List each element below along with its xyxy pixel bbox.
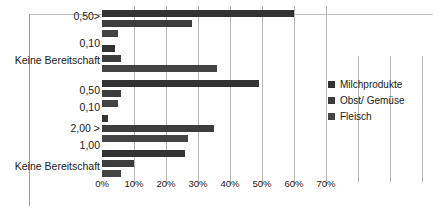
legend-item: Milchprodukte: [328, 76, 404, 92]
legend-swatch-icon: [328, 97, 335, 104]
bar: [102, 80, 259, 87]
category-label: 0,10: [80, 38, 100, 49]
value-tick-label: 60%: [284, 178, 303, 189]
category-label: Keine Bereitschaft: [15, 55, 100, 66]
gridline: [262, 6, 263, 186]
gridline: [326, 6, 327, 186]
gridline: [134, 6, 135, 186]
gridline: [230, 6, 231, 186]
legend-item: Fleisch: [328, 108, 404, 124]
bar: [102, 170, 121, 177]
legend-item: Obst/ Gemüse: [328, 92, 404, 108]
category-axis-line: [29, 14, 30, 206]
value-tick-label: 30%: [188, 178, 207, 189]
bar: [102, 90, 121, 97]
bar: [102, 45, 115, 52]
category-label: 0,50: [80, 85, 100, 96]
bar: [102, 10, 294, 17]
value-tick-label: 10%: [124, 178, 143, 189]
bar: [102, 150, 185, 157]
legend-swatch-icon: [328, 81, 335, 88]
gridline: [422, 56, 423, 182]
bar-chart: 0,50>0,10Keine Bereitschaft0,500,102,00 …: [0, 0, 439, 211]
value-tick-label: 50%: [252, 178, 271, 189]
bar: [102, 65, 217, 72]
legend-label: Fleisch: [340, 111, 372, 122]
bar: [102, 125, 214, 132]
category-label: 0,10: [80, 102, 100, 113]
bar: [102, 115, 108, 122]
plot-area: [102, 8, 327, 176]
bar: [102, 30, 118, 37]
gridline: [294, 6, 295, 186]
gridline: [198, 6, 199, 186]
category-label: 2,00 >: [71, 123, 101, 134]
gridline: [166, 6, 167, 186]
category-label: Keine Bereitschaft: [15, 161, 100, 172]
legend-label: Milchprodukte: [340, 79, 402, 90]
value-tick-label: 70%: [316, 178, 335, 189]
category-label: 0,50>: [73, 11, 100, 22]
chart-legend: MilchprodukteObst/ GemüseFleisch: [328, 76, 404, 124]
bar: [102, 135, 188, 142]
bar: [102, 55, 121, 62]
value-tick-label: 20%: [156, 178, 175, 189]
value-tick-label: 40%: [220, 178, 239, 189]
category-label: 1,00: [80, 140, 100, 151]
bar: [102, 100, 118, 107]
bar: [102, 20, 192, 27]
value-tick-label: 0%: [95, 178, 109, 189]
legend-swatch-icon: [328, 113, 335, 120]
legend-label: Obst/ Gemüse: [340, 95, 404, 106]
bar: [102, 160, 134, 167]
